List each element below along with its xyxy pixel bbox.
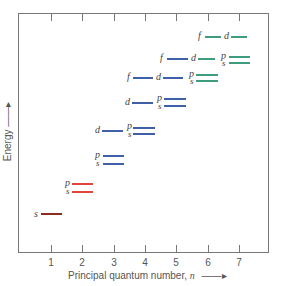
top-tick-4 bbox=[145, 13, 146, 21]
bottom-tick-6 bbox=[208, 245, 209, 253]
x-tick-label-6: 6 bbox=[201, 257, 215, 268]
top-tick-2 bbox=[82, 13, 83, 21]
top-tick-3 bbox=[114, 13, 115, 21]
x-axis-arrow-icon: ——▸ bbox=[202, 270, 227, 281]
level-3s bbox=[103, 163, 124, 165]
level-3p bbox=[103, 155, 124, 157]
level-4f bbox=[133, 77, 153, 79]
label-7s: s bbox=[222, 59, 226, 68]
label-3d: d bbox=[95, 125, 100, 135]
x-tick-label-4: 4 bbox=[138, 257, 152, 268]
top-tick-7 bbox=[239, 13, 240, 21]
x-axis-label-text: Principal quantum number, bbox=[68, 270, 190, 281]
x-tick-label-5: 5 bbox=[169, 257, 183, 268]
level-1s bbox=[41, 213, 62, 215]
level-4p bbox=[133, 127, 155, 129]
level-5f bbox=[167, 58, 188, 60]
level-5s bbox=[164, 105, 186, 107]
top-tick-5 bbox=[176, 13, 177, 21]
level-2p bbox=[72, 183, 93, 185]
energy-level-diagram: 1 2 3 4 5 6 7 Principal quantum number, … bbox=[0, 0, 281, 286]
label-3s: s bbox=[96, 159, 100, 168]
label-7d: d bbox=[224, 31, 229, 41]
level-7s bbox=[229, 62, 250, 64]
label-1s: s bbox=[34, 209, 38, 219]
label-6f: f bbox=[198, 31, 201, 41]
level-6f bbox=[205, 36, 221, 38]
level-5p bbox=[164, 98, 186, 100]
label-6d: d bbox=[191, 53, 196, 63]
y-axis-label: Energy ——▸ bbox=[2, 102, 13, 161]
bottom-tick-7 bbox=[239, 245, 240, 253]
x-tick-label-1: 1 bbox=[44, 257, 58, 268]
x-tick-label-7: 7 bbox=[232, 257, 246, 268]
bottom-tick-4 bbox=[145, 245, 146, 253]
label-4f: f bbox=[127, 72, 130, 82]
level-6d bbox=[198, 58, 215, 60]
label-2s: s bbox=[66, 187, 70, 196]
label-5f: f bbox=[160, 53, 163, 63]
label-6s: s bbox=[190, 77, 194, 86]
level-4d bbox=[132, 102, 153, 104]
top-tick-1 bbox=[51, 13, 52, 21]
x-tick-label-3: 3 bbox=[107, 257, 121, 268]
bottom-tick-5 bbox=[176, 245, 177, 253]
x-axis-variable: n bbox=[190, 270, 195, 281]
level-6s bbox=[196, 80, 218, 82]
level-7p bbox=[229, 56, 250, 58]
bottom-tick-1 bbox=[51, 245, 52, 253]
bottom-tick-2 bbox=[82, 245, 83, 253]
bottom-tick-3 bbox=[114, 245, 115, 253]
label-4d: d bbox=[125, 97, 130, 107]
level-3d bbox=[102, 130, 123, 132]
label-5s: s bbox=[158, 102, 162, 111]
level-6p bbox=[196, 74, 218, 76]
level-5d bbox=[163, 77, 183, 79]
level-4s bbox=[133, 133, 155, 135]
x-axis-label: Principal quantum number, n ——▸ bbox=[68, 270, 227, 281]
x-tick-label-2: 2 bbox=[75, 257, 89, 268]
level-7d bbox=[231, 36, 247, 38]
label-5d: d bbox=[156, 72, 161, 82]
label-4s: s bbox=[128, 130, 132, 139]
level-2s bbox=[72, 191, 93, 193]
top-tick-6 bbox=[208, 13, 209, 21]
